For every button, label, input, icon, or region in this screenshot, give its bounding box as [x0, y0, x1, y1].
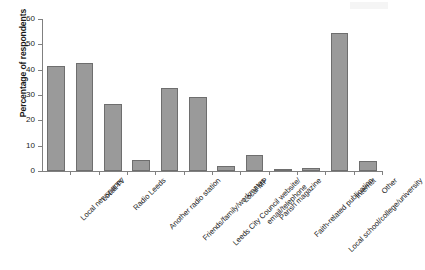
y-tick: 0	[38, 171, 42, 172]
y-tick-label: 40	[26, 65, 35, 74]
x-axis-label: Other	[379, 176, 399, 196]
bar	[76, 63, 94, 171]
x-tick	[70, 171, 71, 175]
x-tick	[184, 171, 185, 175]
x-tick	[297, 171, 298, 175]
bar	[246, 155, 264, 171]
x-tick	[354, 171, 355, 175]
plot-area: 0102030405060	[42, 19, 382, 171]
bar	[161, 88, 179, 171]
y-tick-label: 10	[26, 141, 35, 150]
bar	[47, 66, 65, 171]
x-tick	[99, 171, 100, 175]
x-tick	[127, 171, 128, 175]
y-tick: 60	[38, 19, 42, 20]
y-tick-label: 0	[31, 166, 35, 175]
x-axis-label: Leeds City Council website/ email/teleph…	[231, 176, 309, 254]
x-tick	[155, 171, 156, 175]
x-axis-label: Radio Leeds	[131, 176, 167, 212]
bar	[274, 169, 292, 171]
y-tick: 20	[38, 120, 42, 121]
scan-artifact	[350, 2, 388, 9]
y-tick-label: 20	[26, 115, 35, 124]
x-tick	[212, 171, 213, 175]
bar	[132, 160, 150, 171]
x-tick	[382, 171, 383, 175]
y-tick-label: 30	[26, 90, 35, 99]
y-tick: 30	[38, 95, 42, 96]
bar	[189, 97, 207, 171]
bar	[302, 168, 320, 171]
bar	[217, 166, 235, 171]
y-tick: 10	[38, 146, 42, 147]
bar	[104, 104, 122, 171]
x-tick	[269, 171, 270, 175]
x-tick	[325, 171, 326, 175]
y-tick-label: 60	[26, 14, 35, 23]
x-tick	[240, 171, 241, 175]
y-tick: 40	[38, 70, 42, 71]
y-tick: 50	[38, 44, 42, 45]
bar	[331, 33, 349, 171]
bar	[359, 161, 377, 171]
y-tick-label: 50	[26, 39, 35, 48]
